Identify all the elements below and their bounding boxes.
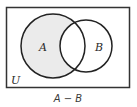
venn-diagram: A B U A − B: [0, 0, 137, 107]
set-a-label: A: [38, 41, 47, 54]
universe-label: U: [11, 74, 21, 87]
set-b-label: B: [94, 41, 103, 54]
diagram-caption: A − B: [53, 93, 83, 104]
